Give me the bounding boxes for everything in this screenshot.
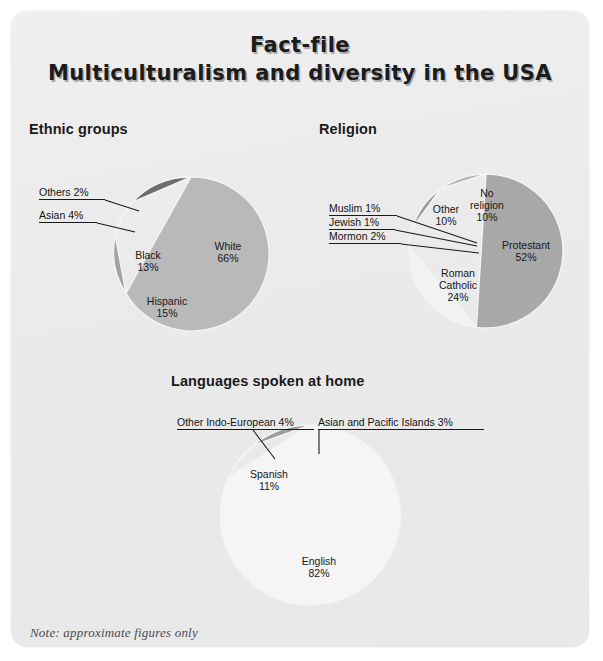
pie-label-catholic-name2: Catholic: [439, 279, 477, 291]
callout-religion-mormon: Mormon 2%: [329, 230, 401, 244]
leader-line-languages-asian-pacific: [318, 430, 326, 455]
footnote-note: Note: approximate figures only: [30, 625, 198, 641]
callout-languages-other-indo-european: Other Indo-European 4%: [177, 416, 314, 430]
callout-ethnic-asian: Asian 4%: [39, 209, 97, 223]
section-title-ethnic-groups: Ethnic groups: [29, 121, 128, 137]
callout-ethnic-others: Others 2%: [39, 186, 105, 200]
pie-label-spanish-pct: 11%: [259, 480, 279, 492]
pie-svg-languages: English 82% Spanish 11%: [220, 425, 422, 627]
page-title-line2: Multiculturalism and diversity in the US…: [11, 58, 589, 88]
pie-label-protestant-pct: 52%: [515, 251, 536, 263]
pie-slice-other-indo-european: [237, 446, 253, 462]
pie-label-english-pct: 82%: [308, 567, 329, 579]
pie-chart-languages: English 82% Spanish 11%: [220, 425, 422, 627]
pie-label-english-name: English: [302, 555, 337, 567]
pie-label-hispanic-name: Hispanic: [147, 295, 187, 307]
pie-slice-hispanic: [114, 236, 126, 294]
section-title-religion: Religion: [319, 121, 377, 137]
pie-label-black-name: Black: [135, 249, 161, 261]
leader-line-ethnic-asian: [97, 212, 139, 232]
pie-label-white-pct: 66%: [217, 252, 238, 264]
pie-label-hispanic-pct: 15%: [156, 307, 177, 319]
pie-label-no-religion-name1: No: [480, 187, 494, 199]
leader-line-religion-mormon: [401, 233, 483, 255]
pie-label-black-pct: 13%: [137, 261, 158, 273]
pie-label-white-name: White: [215, 240, 242, 252]
title-block: Fact-file Multiculturalism and diversity…: [11, 33, 589, 88]
fact-file-card: Fact-file Multiculturalism and diversity…: [11, 11, 589, 647]
pie-label-catholic-pct: 24%: [447, 291, 468, 303]
pie-label-spanish-name: Spanish: [250, 468, 288, 480]
section-title-languages: Languages spoken at home: [171, 373, 364, 389]
pie-label-catholic-name1: Roman: [441, 267, 475, 279]
leader-line-ethnic-others: [105, 189, 143, 211]
leader-line-languages-other-indo-european: [253, 430, 279, 460]
callout-languages-asian-pacific: Asian and Pacific Islands 3%: [318, 416, 484, 430]
callout-religion-jewish: Jewish 1%: [329, 216, 395, 230]
pie-label-protestant-name: Protestant: [502, 239, 550, 251]
pie-slice-no-religion: [441, 174, 486, 189]
page-title-line1: Fact-file: [11, 33, 589, 58]
callout-religion-muslim: Muslim 1%: [329, 202, 397, 216]
